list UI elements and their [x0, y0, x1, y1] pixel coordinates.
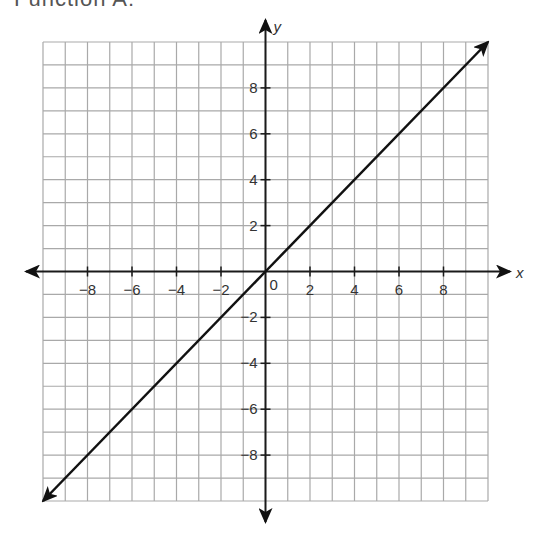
y-tick-label: 6: [249, 125, 257, 142]
y-tick-label: 4: [249, 171, 257, 188]
coordinate-plane: xy−8−6−4−224688642−2−4−6−80: [0, 0, 546, 540]
origin-label: 0: [270, 276, 278, 293]
x-tick-label: −6: [123, 281, 140, 298]
y-tick-label: −6: [240, 400, 257, 417]
x-tick-label: −8: [79, 281, 96, 298]
x-tick-label: 2: [306, 281, 314, 298]
y-tick-label: −8: [240, 446, 257, 463]
y-tick-label: 2: [249, 217, 257, 234]
y-tick-label: −4: [240, 354, 257, 371]
x-axis-label: x: [515, 264, 524, 281]
x-tick-label: −2: [212, 281, 229, 298]
y-tick-label: 8: [249, 79, 257, 96]
x-tick-label: 8: [439, 281, 447, 298]
x-tick-label: 4: [350, 281, 358, 298]
y-axis-label: y: [273, 18, 283, 35]
x-tick-label: 6: [395, 281, 403, 298]
x-tick-label: −4: [168, 281, 185, 298]
y-tick-label: −2: [240, 308, 257, 325]
